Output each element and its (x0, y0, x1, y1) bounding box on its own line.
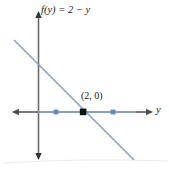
vertical-axis-down-arrow-icon (35, 153, 41, 160)
interval-marker-left (54, 110, 59, 115)
function-line (14, 40, 134, 160)
graph-figure: f(y) = 2 − y (2, 0) y (0, 0, 169, 170)
function-label: f(y) = 2 − y (41, 5, 90, 16)
point-2-0-marker (80, 109, 87, 116)
horizontal-axis-right-arrow-icon (146, 109, 153, 116)
point-label-2-0: (2, 0) (81, 91, 103, 101)
scan-artifact-line (4, 160, 168, 163)
interval-marker-right (111, 110, 116, 115)
coordinate-plane-svg (0, 0, 169, 170)
horizontal-axis-left-arrow-icon (12, 109, 19, 116)
horizontal-axis-label: y (156, 105, 161, 116)
